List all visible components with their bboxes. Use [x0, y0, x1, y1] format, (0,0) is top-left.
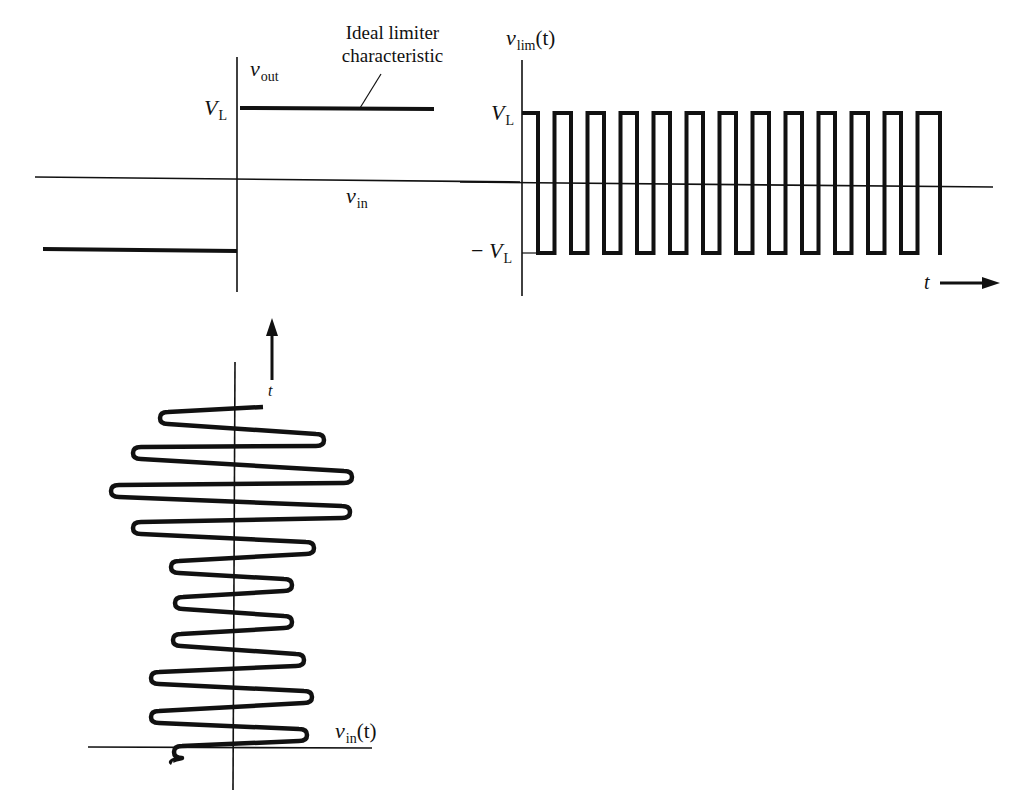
- vlim-axis-label: vlim(t): [506, 27, 555, 49]
- annotation-label: Ideal limiter characteristic: [330, 23, 455, 65]
- label-sub: out: [261, 69, 279, 84]
- label-arg: (t): [357, 719, 377, 743]
- upper-limit-line: [240, 108, 434, 109]
- label-main: V: [491, 100, 504, 125]
- pos-vl-label: VL: [491, 102, 514, 124]
- label-main: v: [506, 25, 516, 50]
- vin-t-label: vin(t): [335, 720, 376, 742]
- annotation-leader-line: [360, 74, 381, 108]
- label-arg: (t): [535, 26, 555, 50]
- time-label: t: [924, 272, 930, 292]
- annotation-line-2: characteristic: [330, 46, 455, 65]
- label-sub: L: [503, 251, 512, 266]
- label-main: v: [335, 718, 345, 743]
- annotation-line-1: Ideal limiter: [330, 23, 455, 42]
- label-sub: lim: [517, 38, 536, 53]
- arrowhead-icon: [982, 277, 1000, 289]
- label-main: V: [489, 238, 502, 263]
- vin-axis: [35, 177, 520, 182]
- vin-axis-label: vin: [346, 185, 368, 207]
- characteristic-plot: [35, 57, 520, 292]
- arrowhead-icon: [266, 318, 278, 336]
- label-sub: in: [346, 731, 357, 746]
- label-main: v: [346, 183, 356, 208]
- vl-level-label: VL: [204, 97, 227, 119]
- label-sub: L: [505, 113, 514, 128]
- vout-axis-label: vout: [250, 58, 279, 80]
- input-signal-plot: [88, 318, 372, 790]
- input-time-label: t: [268, 383, 272, 399]
- neg-vl-label: − VL: [471, 240, 512, 262]
- label-main: v: [250, 56, 260, 81]
- label-main: V: [204, 95, 217, 120]
- minus-sign: −: [471, 238, 489, 263]
- vin-axis: [88, 747, 372, 748]
- input-sinusoid: [111, 407, 352, 763]
- label-sub: L: [218, 108, 227, 123]
- label-sub: in: [357, 196, 368, 211]
- lower-limit-line: [43, 249, 237, 251]
- limited-output-plot: [460, 60, 1000, 296]
